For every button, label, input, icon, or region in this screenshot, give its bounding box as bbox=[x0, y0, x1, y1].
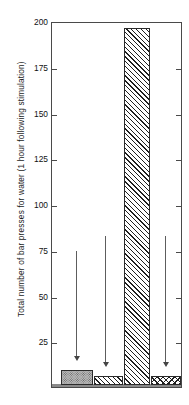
bar-chart-figure: Total number of bar presses for water (1… bbox=[0, 0, 189, 405]
y-tick-mark-125 bbox=[52, 160, 57, 161]
y-tick-mark-right-125 bbox=[176, 160, 181, 161]
y-tick-label-200: 200 bbox=[24, 18, 48, 26]
bar-control-norepinephrine bbox=[94, 376, 123, 385]
y-tick-mark-right-100 bbox=[176, 206, 181, 207]
y-tick-label-150: 150 bbox=[24, 109, 48, 117]
plot-area: Norepinephrine Control (Norepinephrine) … bbox=[51, 22, 182, 388]
y-tick-mark-right-150 bbox=[176, 115, 181, 116]
y-tick-mark-150 bbox=[52, 115, 57, 116]
y-axis-tick-labels: 200 175 150 125 100 75 50 25 bbox=[20, 0, 48, 405]
y-tick-label-100: 100 bbox=[24, 201, 48, 209]
annotation-leader-norepinephrine bbox=[76, 251, 77, 356]
y-tick-mark-25 bbox=[52, 343, 57, 344]
y-tick-mark-100 bbox=[52, 206, 57, 207]
arrowhead-icon bbox=[103, 362, 109, 367]
y-tick-mark-50 bbox=[52, 298, 57, 299]
y-tick-label-25: 25 bbox=[24, 338, 48, 346]
bar-control-carbachol bbox=[151, 376, 181, 385]
y-tick-mark-right-75 bbox=[176, 252, 181, 253]
y-tick-label-50: 50 bbox=[24, 292, 48, 300]
y-tick-mark-right-175 bbox=[176, 69, 181, 70]
y-tick-label-175: 175 bbox=[24, 64, 48, 72]
y-tick-mark-right-50 bbox=[176, 298, 181, 299]
arrowhead-icon bbox=[163, 362, 169, 367]
y-tick-label-75: 75 bbox=[24, 247, 48, 255]
y-tick-mark-75 bbox=[52, 252, 57, 253]
bar-carbachol bbox=[124, 28, 150, 385]
annotation-leader-control-norepinephrine bbox=[105, 236, 106, 362]
arrowhead-icon bbox=[74, 356, 80, 361]
y-tick-label-125: 125 bbox=[24, 155, 48, 163]
bar-norepinephrine bbox=[61, 370, 93, 385]
y-tick-mark-right-25 bbox=[176, 343, 181, 344]
annotation-leader-control-carbachol bbox=[165, 236, 166, 362]
y-tick-mark-175 bbox=[52, 69, 57, 70]
